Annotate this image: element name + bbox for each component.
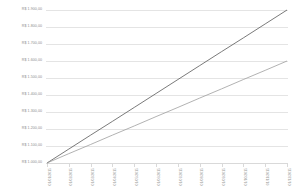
x-tick-label: 01/05/2015 <box>136 168 139 185</box>
y-tick-label: R$ 1.100,00 <box>0 144 42 148</box>
x-axis: 01/01/201501/02/201501/03/201501/04/2015… <box>46 164 288 195</box>
x-tick-label: 01/12/2015 <box>289 168 292 185</box>
x-tick-label: 01/07/2015 <box>180 168 183 185</box>
x-tick <box>69 164 70 167</box>
x-tick-label: 01/08/2015 <box>201 168 204 185</box>
y-tick-label: R$ 1.300,00 <box>0 110 42 114</box>
line-chart: R$ 1.900,00R$ 1.800,00R$ 1.700,00R$ 1.60… <box>0 0 302 195</box>
y-tick-label: R$ 1.700,00 <box>0 42 42 46</box>
x-tick <box>47 164 48 167</box>
x-tick <box>243 164 244 167</box>
series-line-1 <box>47 10 287 163</box>
x-tick <box>287 164 288 167</box>
x-tick-label: 01/01/2015 <box>49 168 52 185</box>
series-line-2 <box>47 61 287 163</box>
x-tick <box>178 164 179 167</box>
x-tick <box>156 164 157 167</box>
x-tick <box>265 164 266 167</box>
y-tick-label: R$ 1.200,00 <box>0 127 42 131</box>
x-tick <box>200 164 201 167</box>
y-tick-label: R$ 1.500,00 <box>0 76 42 80</box>
x-tick-label: 01/03/2015 <box>92 168 95 185</box>
x-tick-label: 01/04/2015 <box>114 168 117 185</box>
y-tick-label: R$ 1.900,00 <box>0 8 42 12</box>
y-tick-label: R$ 1.800,00 <box>0 25 42 29</box>
y-axis: R$ 1.900,00R$ 1.800,00R$ 1.700,00R$ 1.60… <box>0 0 45 195</box>
x-tick-label: 01/06/2015 <box>158 168 161 185</box>
x-tick-label: 01/11/2015 <box>267 168 270 185</box>
y-tick-label: R$ 1.400,00 <box>0 93 42 97</box>
x-tick <box>222 164 223 167</box>
series-layer <box>46 0 288 164</box>
x-tick-label: 01/09/2015 <box>223 168 226 185</box>
x-tick <box>91 164 92 167</box>
x-tick-label: 01/02/2015 <box>70 168 73 185</box>
y-tick-label: R$ 1.000,00 <box>0 161 42 165</box>
y-tick-label: R$ 1.600,00 <box>0 59 42 63</box>
x-tick <box>112 164 113 167</box>
x-tick-label: 01/10/2015 <box>245 168 248 185</box>
x-tick <box>134 164 135 167</box>
plot-area <box>46 0 288 164</box>
